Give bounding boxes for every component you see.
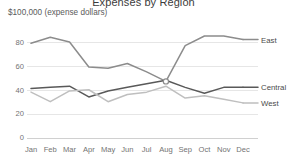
series-lines (31, 36, 258, 103)
data-marker-east-aug[interactable] (163, 79, 168, 84)
series-inline-labels: EastCentralWest (261, 36, 286, 108)
x-tick-may: May (101, 145, 116, 154)
x-tick-mar: Mar (63, 145, 77, 154)
x-tick-apr: Apr (83, 145, 95, 154)
series-label-west: West (261, 99, 279, 108)
y-tick-0: 0 (20, 133, 24, 142)
x-tick-jan: Jan (25, 145, 37, 154)
y-tick-40: 40 (16, 86, 24, 95)
y-tick-60: 60 (16, 62, 24, 71)
x-tick-jul: Jul (142, 145, 152, 154)
x-tick-dec: Dec (236, 145, 250, 154)
gridlines (27, 43, 258, 139)
x-tick-sep: Sep (178, 145, 192, 154)
chart-plot-area: 020406080 JanFebMarAprMayJunJulAugSepOct… (0, 0, 287, 162)
series-label-central: Central (261, 83, 286, 92)
x-tick-nov: Nov (217, 145, 231, 154)
y-tick-20: 20 (16, 109, 24, 118)
x-tick-feb: Feb (44, 145, 57, 154)
series-label-east: East (261, 36, 277, 45)
y-tick-80: 80 (16, 38, 24, 47)
x-tick-jun: Jun (121, 145, 133, 154)
line-chart: Expenses by Region $100,000 (expense dol… (0, 0, 287, 162)
series-line-west (31, 86, 243, 103)
y-axis-tick-labels: 020406080 (16, 38, 24, 143)
x-tick-aug: Aug (159, 145, 173, 154)
x-axis-tick-labels: JanFebMarAprMayJunJulAugSepOctNovDec (25, 145, 250, 154)
x-tick-oct: Oct (199, 145, 212, 154)
data-point-markers (163, 79, 168, 84)
